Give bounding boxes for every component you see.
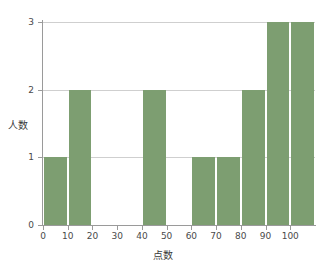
x-tick-mark-50 — [167, 226, 168, 230]
x-tick-mark-70 — [216, 226, 217, 230]
y-tick-label-3: 3 — [20, 18, 34, 27]
bar-0-10 — [44, 157, 67, 225]
y-tick-label-0: 0 — [20, 221, 34, 230]
bar-40-50 — [143, 90, 166, 225]
x-tick-label-80: 80 — [228, 232, 254, 241]
x-tick-label-100: 100 — [277, 232, 303, 241]
x-tick-mark-80 — [241, 226, 242, 230]
x-tick-mark-10 — [68, 226, 69, 230]
bar-90-100 — [267, 22, 290, 225]
x-tick-label-90: 90 — [253, 232, 279, 241]
bar-100-110 — [291, 22, 314, 225]
plot-area — [43, 22, 315, 225]
bar-10-20 — [69, 90, 92, 225]
x-tick-mark-60 — [191, 226, 192, 230]
y-axis-line — [42, 20, 43, 226]
x-tick-mark-20 — [92, 226, 93, 230]
x-axis-line — [42, 225, 316, 226]
histogram-chart: 0123 0102030405060708090100 人数 点数 — [0, 0, 326, 266]
x-tick-mark-30 — [117, 226, 118, 230]
y-tick-label-2: 2 — [20, 86, 34, 95]
x-tick-mark-100 — [290, 226, 291, 230]
y-tick-mark-1 — [38, 157, 42, 158]
bar-80-90 — [242, 90, 265, 225]
x-tick-label-10: 10 — [55, 232, 81, 241]
x-tick-label-60: 60 — [178, 232, 204, 241]
x-tick-mark-40 — [142, 226, 143, 230]
bar-60-70 — [192, 157, 215, 225]
x-tick-label-50: 50 — [154, 232, 180, 241]
bar-70-80 — [217, 157, 240, 225]
y-tick-mark-2 — [38, 90, 42, 91]
x-tick-label-20: 20 — [79, 232, 105, 241]
y-tick-mark-3 — [38, 22, 42, 23]
x-tick-label-30: 30 — [104, 232, 130, 241]
y-axis-title: 人数 — [8, 117, 28, 132]
x-axis-title: 点数 — [0, 247, 326, 262]
x-tick-mark-0 — [43, 226, 44, 230]
x-tick-label-70: 70 — [203, 232, 229, 241]
x-tick-label-0: 0 — [30, 232, 56, 241]
x-tick-mark-90 — [266, 226, 267, 230]
x-tick-label-40: 40 — [129, 232, 155, 241]
y-tick-label-1: 1 — [20, 153, 34, 162]
y-tick-mark-0 — [38, 225, 42, 226]
